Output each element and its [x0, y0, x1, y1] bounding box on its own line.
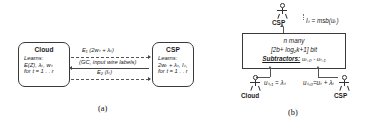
message-arrowhead-top-icon [148, 55, 151, 59]
message-arrowhead-bottom-icon [148, 77, 151, 81]
output-arrowhead-csp-top-icon [280, 24, 284, 27]
circuit-subtractors-value: uₜ,₀ - uₜ,₁ [302, 56, 326, 62]
output-tick-marker [303, 14, 304, 20]
actor-cloud-icon [249, 75, 262, 92]
actor-csp-bottom-icon [338, 75, 351, 92]
figure-canvas: Cloud Learns: E(Z), λₜ, wₜ for t = 1 . .… [0, 0, 389, 130]
circuit-line-bitwidth: [2b+ log₂k+1] bit [243, 45, 345, 54]
panel-a-caption: (a) [98, 104, 107, 113]
entity-csp-line-3: for t = 1 . . r [153, 68, 193, 75]
input-arrowhead-right-icon [316, 66, 320, 69]
entity-cloud: Cloud Learns: E(Z), λₜ, wₜ for t = 1 . .… [18, 42, 70, 87]
actor-cloud-label: Cloud [241, 92, 259, 99]
message-arrowhead-middle-icon [69, 66, 72, 70]
entity-cloud-title: Cloud [19, 46, 69, 54]
message-line-bottom [71, 79, 149, 80]
entity-csp-title: CSP [153, 46, 193, 54]
circuit-subtractors-label: Subtractors: [262, 55, 300, 62]
connector-right [318, 77, 338, 78]
panel-b-caption: (b) [288, 108, 298, 117]
message-label-middle: (GC, input wire labels) [79, 59, 136, 66]
input-arrowhead-left-icon [268, 66, 272, 69]
circuit-line-n-many: n many [243, 34, 345, 45]
input-label-left: uₜ,₁ = λₜ [264, 79, 286, 86]
message-label-bottom: E₂ (Iₜ) [97, 69, 112, 76]
input-label-right: uₜ,₀=uₜ + λₜ [303, 79, 334, 86]
message-label-top: E₁ (2wₜ + λₜ) [82, 47, 114, 54]
output-label-msb: Iₜ = msb(uₜ) [306, 17, 339, 24]
input-line-right [318, 69, 319, 77]
entity-cloud-line-3: for t = 1 . . r [19, 68, 69, 75]
entity-cloud-line-1: Learns: [19, 54, 69, 62]
entity-cloud-line-2: E(Z), λₜ, wₜ [19, 62, 69, 69]
entity-csp: CSP Learns: 2wₜ + λₜ, Iₜ, for t = 1 . . … [152, 42, 194, 87]
actor-csp-top-icon [276, 3, 289, 20]
entity-csp-line-1: Learns: [153, 54, 193, 62]
circuit-line-subtractors: Subtractors: uₜ,₀ - uₜ,₁ [243, 54, 345, 64]
circuit-box-subtractors: n many [2b+ log₂k+1] bit Subtractors: uₜ… [242, 33, 346, 69]
entity-csp-line-2: 2wₜ + λₜ, Iₜ, [153, 62, 193, 69]
input-line-left [270, 69, 271, 77]
actor-csp-bottom-label: CSP [334, 92, 347, 99]
